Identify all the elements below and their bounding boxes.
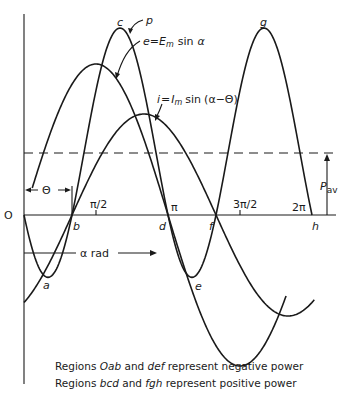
caption-text: Regions xyxy=(55,377,100,389)
pav-arrow-icon xyxy=(324,154,330,161)
label-g: g xyxy=(260,16,267,29)
region-label: Oab xyxy=(100,360,121,372)
axis-label-alpha: α rad xyxy=(80,247,109,260)
theta-arrow-left-icon xyxy=(25,188,31,193)
tick-label-half-pi: π/2 xyxy=(90,198,107,211)
tick-label-three-half-pi: 3π/2 xyxy=(233,198,257,211)
label-current-equation: i=Imsin(α−Θ) xyxy=(157,93,238,107)
p-leader-arrow-icon xyxy=(128,28,133,34)
caption-line-positive: Regions bcd and fgh represent positive p… xyxy=(55,377,296,389)
region-label: bcd xyxy=(100,377,119,389)
label-b: b xyxy=(73,220,80,233)
region-label: def xyxy=(148,360,165,372)
alpha-arrow-icon xyxy=(150,250,157,256)
label-e: e xyxy=(195,280,202,293)
caption-line-negative: Regions Oab and def represent negative p… xyxy=(55,360,303,372)
power-waveform-diagram: c p g e=Emsinα i=Imsin(α−Θ) O Θ b d f h … xyxy=(0,0,351,399)
tick-label-pi: π xyxy=(171,201,178,214)
caption-text: represent positive power xyxy=(162,377,296,389)
label-origin: O xyxy=(4,209,13,222)
label-c: c xyxy=(117,16,123,29)
label-h: h xyxy=(312,220,319,233)
region-label: fgh xyxy=(145,377,162,389)
label-a: a xyxy=(43,279,50,292)
caption-text: and xyxy=(121,360,147,372)
label-p: p xyxy=(145,14,153,27)
label-d: d xyxy=(159,220,167,233)
label-voltage-equation: e=Emsinα xyxy=(143,35,206,49)
theta-arrow-right-icon xyxy=(65,188,71,193)
caption-text: Regions xyxy=(55,360,100,372)
tick-label-two-pi: 2π xyxy=(292,201,306,214)
caption-text: and xyxy=(119,377,145,389)
label-theta: Θ xyxy=(42,184,51,197)
label-pav: Pav xyxy=(320,180,338,195)
caption-text: represent negative power xyxy=(164,360,303,372)
